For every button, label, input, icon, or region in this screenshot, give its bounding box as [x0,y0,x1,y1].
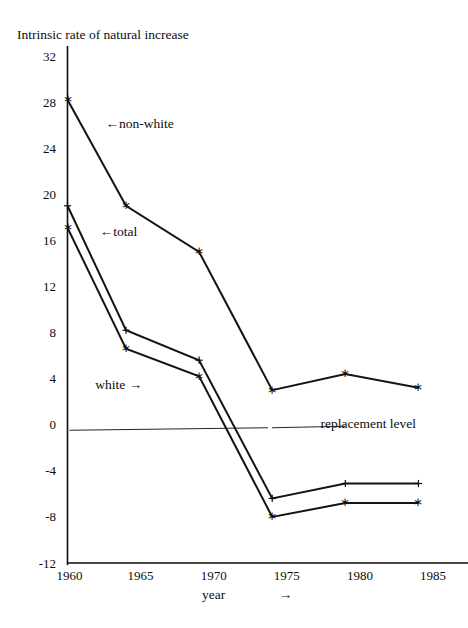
replacement-level-label: replacement level [320,417,416,431]
y-tick-label: 28 [22,96,56,109]
svg-text:∗: ∗ [194,369,204,383]
y-tick-label: 4 [22,372,56,385]
x-tick-label: 1970 [190,569,238,582]
svg-text:∗: ∗ [63,220,73,234]
svg-text:∗: ∗ [267,509,277,523]
y-tick-label: 16 [22,234,56,247]
svg-text:∗: ∗ [340,495,350,509]
x-axis-direction-arrow: → [279,588,293,602]
y-tick-label: 32 [22,50,56,63]
white-label: white → [95,378,142,392]
y-tick-label: -12 [22,557,56,570]
svg-text:∗: ∗ [194,244,204,258]
total-label: ←total [100,225,138,239]
y-tick-label: 0 [22,418,56,431]
chart-series-group: ∗∗∗∗∗∗∗∗∗∗∗∗ [63,92,424,523]
svg-text:∗: ∗ [63,92,73,106]
replacement-level-line [70,426,346,430]
svg-text:∗: ∗ [413,495,423,509]
non-white-label: ←non-white [106,117,174,131]
x-tick-label: 1975 [263,569,311,582]
y-tick-label: 20 [22,188,56,201]
svg-text:∗: ∗ [413,380,423,394]
y-tick-label: 24 [22,142,56,155]
y-tick-label: 8 [22,326,56,339]
line-chart-plot: ∗∗∗∗∗∗∗∗∗∗∗∗ [0,0,468,628]
svg-text:∗: ∗ [121,198,131,212]
y-tick-label: 12 [22,280,56,293]
x-axis-title: year [190,588,238,602]
chart-page: Intrinsic rate of natural increase ∗∗∗∗∗… [0,0,468,628]
svg-text:∗: ∗ [340,366,350,380]
x-tick-label: 1980 [336,569,384,582]
svg-text:∗: ∗ [121,341,131,355]
x-tick-label: 1965 [117,569,165,582]
svg-text:∗: ∗ [267,383,277,397]
x-tick-label: 1985 [409,569,457,582]
y-tick-label: -4 [22,464,56,477]
x-tick-label: 1960 [46,569,94,582]
y-tick-label: -8 [22,510,56,523]
